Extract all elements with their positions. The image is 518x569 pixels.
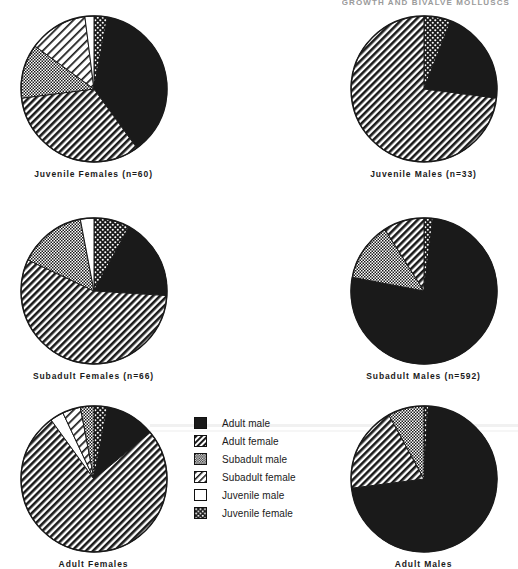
- legend-row-juvenile-male: Juvenile male: [194, 486, 334, 504]
- legend-label-subadult-female: Subadult female: [222, 472, 296, 483]
- legend-swatch-juvenile-male: [194, 489, 207, 501]
- legend-swatch-adult-female: [194, 435, 207, 447]
- pie-svg-adult-males: [349, 404, 499, 554]
- pie-svg-juvenile-males: [349, 14, 499, 164]
- legend-label-juvenile-male: Juvenile male: [222, 490, 284, 501]
- chart-legend: Adult maleAdult femaleSubadult maleSubad…: [194, 414, 334, 522]
- pie-adult-males: [349, 404, 499, 554]
- pie-svg-adult-females: [19, 404, 169, 554]
- legend-row-subadult-female: Subadult female: [194, 468, 334, 486]
- legend-swatch-subadult-female: [194, 471, 207, 483]
- pie-panel-juvenile-females: Juvenile Females (n=60): [6, 14, 181, 179]
- pie-caption-adult-males: Adult Males: [336, 559, 511, 569]
- legend-label-subadult-male: Subadult male: [222, 454, 287, 465]
- pie-panel-adult-females: Adult Females: [6, 404, 181, 569]
- legend-label-juvenile-female: Juvenile female: [222, 508, 293, 519]
- pie-panel-juvenile-males: Juvenile Males (n=33): [336, 14, 511, 179]
- pie-caption-adult-females: Adult Females: [6, 559, 181, 569]
- legend-row-juvenile-female: Juvenile female: [194, 504, 334, 522]
- pie-caption-subadult-females: Subadult Females (n=66): [6, 371, 181, 381]
- legend-swatch-subadult-male: [194, 453, 207, 465]
- pie-panel-adult-males: Adult Males: [336, 404, 511, 569]
- legend-row-adult-male: Adult male: [194, 414, 334, 432]
- pie-svg-subadult-females: [19, 216, 169, 366]
- pie-subadult-males: [349, 216, 499, 366]
- pie-svg-juvenile-females: [19, 14, 169, 164]
- pie-caption-subadult-males: Subadult Males (n=592): [336, 371, 511, 381]
- pie-panel-subadult-females: Subadult Females (n=66): [6, 216, 181, 381]
- pie-caption-juvenile-males: Juvenile Males (n=33): [336, 169, 511, 179]
- legend-label-adult-male: Adult male: [222, 418, 270, 429]
- legend-row-subadult-male: Subadult male: [194, 450, 334, 468]
- pie-caption-juvenile-females: Juvenile Females (n=60): [6, 169, 181, 179]
- legend-label-adult-female: Adult female: [222, 436, 279, 447]
- pie-adult-females: [19, 404, 169, 554]
- pie-juvenile-males: [349, 14, 499, 164]
- pie-svg-subadult-males: [349, 216, 499, 366]
- legend-swatch-juvenile-female: [194, 507, 207, 519]
- running-header: GROWTH AND BIVALVE MOLLUSCS: [342, 0, 510, 5]
- pie-juvenile-females: [19, 14, 169, 164]
- pie-subadult-females: [19, 216, 169, 366]
- legend-swatch-adult-male: [194, 417, 207, 429]
- pie-panel-subadult-males: Subadult Males (n=592): [336, 216, 511, 381]
- legend-row-adult-female: Adult female: [194, 432, 334, 450]
